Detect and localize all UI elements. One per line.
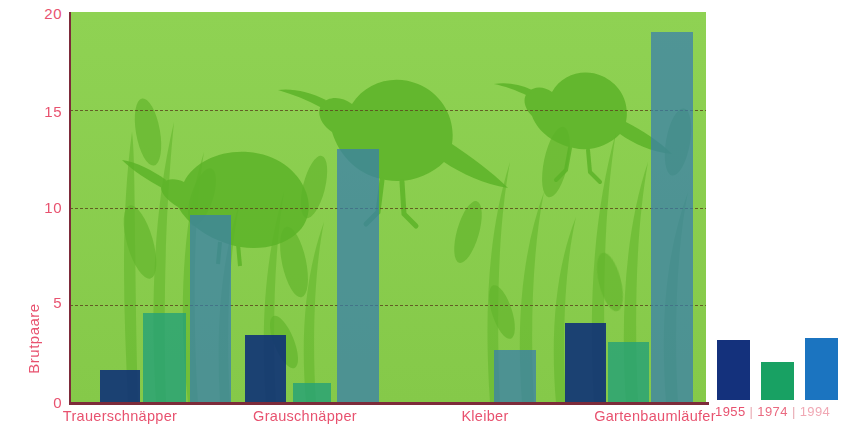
x-tick-kleiber: Kleiber: [395, 408, 575, 424]
chart-figure: 20 15 10 5 0 Brutpaare Trauerschnäpper G…: [0, 0, 860, 440]
bar-trauerschnaepper-1955: [100, 370, 140, 403]
legend-swatch-1974: [761, 362, 794, 400]
legend-label-1955: 1955: [715, 404, 746, 419]
gridline-5: [70, 305, 706, 306]
bar-kleiber-1994: [494, 350, 536, 403]
x-tick-grauschnaepper: Grauschnäpper: [215, 408, 395, 424]
x-axis-line: [69, 402, 709, 405]
legend-labels: 1955 | 1974 | 1994: [715, 404, 855, 419]
gridline-15: [70, 110, 706, 111]
legend-label-1974: 1974: [757, 404, 788, 419]
bar-grauschnaepper-1974: [293, 383, 331, 403]
bar-gartenbaumlaeufer-1955: [565, 323, 606, 403]
gridline-10: [70, 208, 706, 209]
legend-separator-1: |: [750, 404, 754, 419]
y-tick-20: 20: [22, 5, 62, 22]
y-tick-15: 15: [22, 103, 62, 120]
bar-gartenbaumlaeufer-1994: [651, 32, 693, 403]
legend-label-1994: 1994: [800, 404, 831, 419]
y-axis-title: Brutpaare: [25, 284, 42, 394]
legend-separator-2: |: [792, 404, 796, 419]
bar-trauerschnaepper-1994: [190, 215, 231, 403]
legend-swatch-1994: [805, 338, 838, 400]
y-tick-10: 10: [22, 199, 62, 216]
bar-grauschnaepper-1994: [337, 149, 379, 403]
legend-swatch-1955: [717, 340, 750, 400]
bar-trauerschnaepper-1974: [143, 313, 186, 403]
bar-grauschnaepper-1955: [245, 335, 286, 403]
plot-area: [70, 12, 706, 403]
x-tick-trauerschnaepper: Trauerschnäpper: [30, 408, 210, 424]
legend: 1955 | 1974 | 1994: [715, 340, 855, 435]
y-axis-line: [69, 12, 71, 405]
bar-gartenbaumlaeufer-1974: [608, 342, 649, 403]
